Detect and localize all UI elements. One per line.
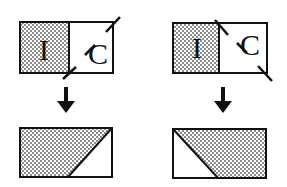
left-top-label-i: I	[39, 33, 49, 66]
left-top-box: I C	[20, 17, 120, 79]
right-bottom-box	[173, 129, 266, 178]
left-down-arrow	[57, 87, 75, 113]
right-top-label-c: C	[240, 28, 260, 61]
left-bottom-shaded-region	[20, 128, 112, 177]
diagram-canvas: I C I C	[0, 0, 287, 187]
right-down-arrow	[214, 87, 232, 113]
right-top-box: I C	[173, 20, 272, 81]
right-bottom-shaded-region	[174, 129, 266, 178]
left-top-label-c: C	[88, 37, 108, 70]
left-bottom-box	[20, 128, 112, 177]
right-top-label-i: I	[192, 31, 202, 64]
